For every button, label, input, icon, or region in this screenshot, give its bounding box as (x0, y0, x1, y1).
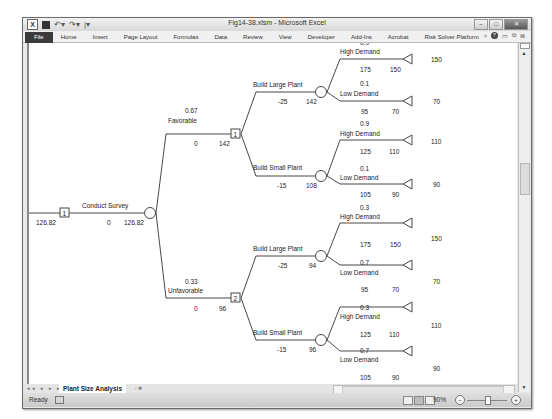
svg-text:175: 175 (360, 66, 371, 73)
svg-text:Low Demand: Low Demand (340, 356, 379, 363)
chance-node-survey (145, 208, 156, 219)
svg-text:110: 110 (389, 331, 400, 338)
zoom-slider-handle[interactable] (485, 396, 491, 405)
tab-developer[interactable]: Developer (300, 32, 343, 43)
tab-view[interactable]: View (271, 32, 300, 43)
worksheet-area[interactable]: 1 1 2 126.82 Conduct Survey 0 126.82 0.6… (27, 43, 517, 384)
svg-text:1: 1 (63, 210, 67, 217)
svg-text:-25: -25 (278, 98, 288, 105)
decision-tree: 1 1 2 126.82 Conduct Survey 0 126.82 0.6… (29, 43, 517, 384)
svg-text:70: 70 (392, 286, 400, 293)
svg-text:0.9: 0.9 (360, 43, 369, 46)
zoom-in-icon[interactable]: + (511, 395, 521, 405)
svg-text:-25: -25 (278, 262, 288, 269)
zoom-level[interactable]: 90% (433, 396, 446, 403)
tab-formulas[interactable]: Formulas (165, 32, 206, 43)
restore-window-icon[interactable]: ⧉ (512, 32, 516, 39)
svg-text:150: 150 (390, 241, 401, 248)
svg-text:142: 142 (306, 98, 317, 105)
svg-text:126.82: 126.82 (36, 219, 56, 226)
close-window-icon[interactable]: ⊠ (520, 32, 525, 39)
svg-text:High Demand: High Demand (340, 313, 380, 321)
tab-page-layout[interactable]: Page Layout (116, 32, 166, 43)
tab-add-ins[interactable]: Add-Ins (343, 32, 380, 43)
insert-sheet-icon[interactable]: ⌐✱ (135, 385, 142, 391)
svg-text:110: 110 (389, 148, 400, 155)
svg-text:142: 142 (219, 140, 230, 147)
svg-text:110: 110 (431, 322, 442, 329)
ribbon-right-icons: ▿ ? ▭ ⧉ ⊠ (484, 32, 525, 39)
svg-text:Conduct Survey: Conduct Survey (82, 202, 129, 210)
minimize-button[interactable]: – (474, 19, 488, 30)
svg-text:-15: -15 (277, 346, 287, 353)
svg-text:0: 0 (107, 219, 111, 226)
svg-text:90: 90 (433, 365, 441, 372)
svg-text:0.3: 0.3 (360, 304, 369, 311)
svg-text:110: 110 (431, 138, 442, 145)
ribbon: File Home Insert Page Layout Formulas Da… (23, 31, 531, 43)
close-button[interactable]: ✕ (504, 19, 528, 30)
svg-text:126.82: 126.82 (124, 219, 144, 226)
svg-text:95: 95 (361, 286, 369, 293)
tab-review[interactable]: Review (235, 32, 271, 43)
svg-text:Build Small Plant: Build Small Plant (253, 329, 302, 336)
maximize-button[interactable]: □ (489, 19, 503, 30)
svg-text:105: 105 (360, 191, 371, 198)
svg-text:0.7: 0.7 (360, 347, 369, 354)
svg-text:125: 125 (360, 331, 371, 338)
svg-text:High Demand: High Demand (340, 130, 380, 138)
svg-text:0.1: 0.1 (360, 165, 369, 172)
svg-text:Favorable: Favorable (168, 117, 197, 124)
scroll-thumb[interactable] (520, 163, 530, 195)
scroll-up-icon[interactable]: ▲ (520, 49, 528, 57)
vertical-scrollbar[interactable]: ▲ ▼ (518, 43, 529, 392)
svg-text:0.67: 0.67 (185, 107, 198, 114)
svg-text:105: 105 (360, 374, 371, 381)
svg-text:150: 150 (431, 235, 442, 242)
tab-data[interactable]: Data (206, 32, 235, 43)
svg-text:96: 96 (219, 305, 227, 312)
tab-insert[interactable]: Insert (85, 32, 116, 43)
svg-text:Build Large Plant: Build Large Plant (253, 245, 303, 253)
svg-text:150: 150 (431, 56, 442, 63)
scroll-down-icon[interactable]: ▼ (520, 383, 528, 391)
minimize-ribbon-icon[interactable]: ▿ (484, 32, 487, 39)
sheet-tab-bar: ◂◂ ◂ ▸ ▸▸ Plant Size Analysis ⌐✱ (23, 384, 518, 393)
page-layout-view-icon[interactable] (414, 396, 424, 405)
svg-text:High Demand: High Demand (340, 213, 380, 221)
svg-text:90: 90 (433, 181, 441, 188)
svg-text:175: 175 (360, 241, 371, 248)
status-ready: Ready (29, 396, 48, 403)
svg-text:Unfavorable: Unfavorable (168, 287, 203, 294)
title-bar: X ↶▾ ↷▾ |▾ Fig14-38.xlsm - Microsoft Exc… (23, 18, 531, 31)
svg-text:Build Small Plant: Build Small Plant (253, 164, 302, 171)
svg-text:Low Demand: Low Demand (340, 174, 379, 181)
help-icon[interactable]: ? (491, 32, 498, 39)
tab-risk-solver-platform[interactable]: Risk Solver Platform (416, 32, 486, 43)
macro-record-icon[interactable] (55, 396, 64, 404)
svg-text:Build Large Plant: Build Large Plant (253, 81, 303, 89)
tab-home[interactable]: Home (53, 32, 85, 43)
svg-text:95: 95 (361, 108, 369, 115)
sheet-tab-plant-size-analysis[interactable]: Plant Size Analysis (59, 384, 126, 393)
minimize-window-icon[interactable]: ▭ (502, 32, 508, 39)
zoom-out-icon[interactable]: − (455, 395, 465, 405)
ribbon-tabs: File Home Insert Page Layout Formulas Da… (25, 32, 487, 43)
tab-file[interactable]: File (25, 32, 53, 43)
svg-text:108: 108 (306, 182, 317, 189)
svg-text:High Demand: High Demand (340, 48, 380, 56)
svg-text:70: 70 (392, 108, 400, 115)
svg-text:94: 94 (309, 262, 317, 269)
svg-text:1: 1 (234, 131, 238, 138)
normal-view-icon[interactable] (403, 396, 413, 405)
svg-text:150: 150 (390, 66, 401, 73)
status-bar: Ready 90% − + (23, 393, 531, 407)
svg-text:0: 0 (194, 305, 198, 312)
excel-window: X ↶▾ ↷▾ |▾ Fig14-38.xlsm - Microsoft Exc… (22, 17, 532, 409)
svg-text:70: 70 (433, 98, 441, 105)
svg-text:Low Demand: Low Demand (340, 90, 379, 97)
svg-text:90: 90 (392, 374, 400, 381)
svg-text:0.33: 0.33 (185, 278, 198, 285)
tab-acrobat[interactable]: Acrobat (380, 32, 417, 43)
svg-text:2: 2 (234, 295, 238, 302)
